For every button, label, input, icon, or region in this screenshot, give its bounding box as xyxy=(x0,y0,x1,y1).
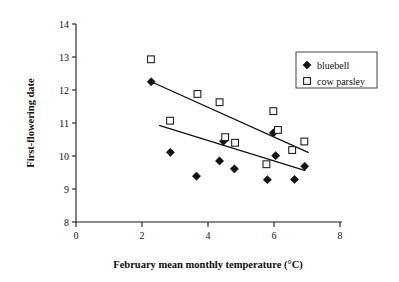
trend-line-bluebell xyxy=(151,82,308,153)
point-bluebell-1 xyxy=(166,148,174,156)
point-cow-parsley-6 xyxy=(263,161,270,168)
y-axis-title: First-flowering date xyxy=(25,78,36,168)
point-bluebell-6 xyxy=(263,176,271,184)
legend-marker-cow-parsley xyxy=(304,78,311,85)
point-cow-parsley-2 xyxy=(194,91,201,98)
point-bluebell-5 xyxy=(230,165,238,173)
point-cow-parsley-1 xyxy=(167,117,174,124)
x-tick-label-8: 8 xyxy=(338,230,343,241)
x-tick-label-0: 0 xyxy=(74,230,79,241)
x-tick-label-4: 4 xyxy=(206,230,211,241)
point-cow-parsley-0 xyxy=(148,56,155,63)
point-bluebell-2 xyxy=(192,172,200,180)
point-cow-parsley-10 xyxy=(301,138,308,145)
point-bluebell-3 xyxy=(215,157,223,165)
x-tick-label-2: 2 xyxy=(140,230,145,241)
scatter-chart-figure: 89101112131402468 February mean monthly … xyxy=(0,0,399,282)
point-cow-parsley-8 xyxy=(275,127,282,134)
point-cow-parsley-5 xyxy=(232,139,239,146)
y-tick-label-13: 13 xyxy=(59,52,69,63)
point-bluebell-8 xyxy=(272,152,280,160)
point-cow-parsley-4 xyxy=(222,134,229,141)
point-cow-parsley-3 xyxy=(216,99,223,106)
chart-legend: bluebellcow parsley xyxy=(296,52,377,88)
trend-lines xyxy=(151,82,308,171)
y-tick-label-12: 12 xyxy=(59,85,69,96)
y-tick-label-10: 10 xyxy=(59,151,69,162)
axis-titles: February mean monthly temperature (°C)Fi… xyxy=(25,78,303,271)
y-tick-label-11: 11 xyxy=(59,118,69,129)
y-tick-label-14: 14 xyxy=(59,19,69,30)
x-tick-label-6: 6 xyxy=(272,230,277,241)
point-bluebell-9 xyxy=(290,175,298,183)
legend-label-cow-parsley: cow parsley xyxy=(317,76,365,87)
trend-line-cow-parsley xyxy=(159,125,305,170)
point-cow-parsley-7 xyxy=(270,108,277,115)
x-axis-title: February mean monthly temperature (°C) xyxy=(113,259,303,271)
y-tick-label-9: 9 xyxy=(64,184,69,195)
point-bluebell-0 xyxy=(147,78,155,86)
y-tick-label-8: 8 xyxy=(64,217,69,228)
chart-canvas: 89101112131402468 February mean monthly … xyxy=(0,0,399,282)
point-cow-parsley-9 xyxy=(289,147,296,154)
legend-label-bluebell: bluebell xyxy=(317,60,349,71)
